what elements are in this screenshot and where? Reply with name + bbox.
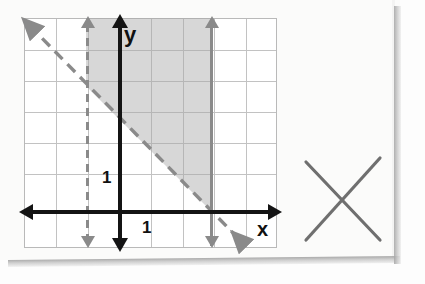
grid-line-horizontal <box>25 50 276 51</box>
screenshot-scene: y x 1 1 <box>0 0 425 284</box>
arrow-down-icon <box>205 236 219 248</box>
y-axis <box>118 22 122 246</box>
grid-line-horizontal <box>25 143 276 144</box>
paper-right-shadow <box>394 6 401 264</box>
arrow-up-icon <box>205 16 219 28</box>
axis-label-x: x <box>257 218 268 241</box>
grid-line-horizontal <box>25 81 276 82</box>
arrow-right-icon <box>268 204 282 220</box>
x-cross-mark-icon <box>300 150 386 246</box>
x-axis <box>25 210 275 214</box>
arrow-down-icon <box>81 236 95 248</box>
arrow-down-icon <box>112 238 128 252</box>
grid-line-horizontal <box>25 174 276 175</box>
axis-label-y: y <box>124 22 136 48</box>
unit-label-y: 1 <box>102 168 111 188</box>
arrow-up-icon <box>81 16 95 28</box>
grid-line-horizontal <box>25 112 276 113</box>
unit-label-x: 1 <box>142 218 151 238</box>
arrow-left-icon <box>19 204 33 220</box>
